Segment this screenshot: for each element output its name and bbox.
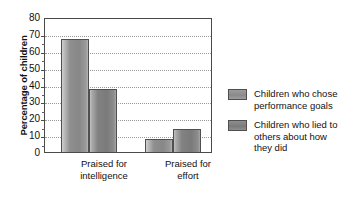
x-axis-label-intelligence: Praised for intelligence	[59, 158, 149, 181]
y-tick-label: 0	[16, 148, 40, 158]
y-tick-label: 50	[16, 64, 40, 74]
legend-entry-performance-goals: Children who chose performance goals	[228, 88, 358, 111]
x-axis-label-line: effort	[143, 170, 233, 182]
x-axis-label-line: Praised for	[143, 158, 233, 170]
gridline	[45, 36, 211, 37]
y-tick-label: 60	[16, 47, 40, 57]
y-tick-mark-minor	[42, 61, 45, 62]
bar-chart-figure: Percentage of children 80 70 60 50 40 30…	[0, 0, 358, 202]
chart-legend: Children who chose performance goals Chi…	[228, 88, 358, 162]
y-tick-label: 80	[16, 13, 40, 23]
legend-label-line: others about how	[254, 131, 327, 142]
y-tick-mark-minor	[42, 78, 45, 79]
bar-effort-performance-goals	[145, 139, 173, 152]
bar-effort-lied	[173, 129, 201, 152]
y-tick-mark	[41, 103, 45, 104]
legend-swatch-icon	[228, 120, 247, 131]
y-tick-mark-minor	[42, 112, 45, 113]
legend-swatch-icon	[228, 89, 247, 100]
y-tick-mark-minor	[42, 95, 45, 96]
y-tick-label: 30	[16, 97, 40, 107]
legend-label-line: Children who lied to	[254, 119, 337, 130]
y-tick-mark-minor	[42, 44, 45, 45]
y-tick-mark	[41, 70, 45, 71]
x-axis-label-line: Praised for	[59, 158, 149, 170]
bar-intelligence-performance-goals	[61, 39, 89, 152]
bar-intelligence-lied	[89, 89, 117, 152]
legend-label: Children who chose performance goals	[254, 88, 358, 111]
y-tick-mark	[41, 120, 45, 121]
legend-entry-lied: Children who lied to others about how th…	[228, 119, 358, 154]
y-tick-label: 40	[16, 81, 40, 91]
y-axis-tick-labels: 80 70 60 50 40 30 20 10 0	[16, 13, 40, 153]
y-tick-label: 10	[16, 131, 40, 141]
x-axis-label-line: intelligence	[59, 170, 149, 182]
y-tick-mark-minor	[42, 129, 45, 130]
y-tick-label: 70	[16, 30, 40, 40]
plot-inner	[45, 19, 211, 152]
x-axis-label-effort: Praised for effort	[143, 158, 233, 181]
y-tick-label: 20	[16, 114, 40, 124]
legend-label-line: they did	[254, 142, 287, 153]
plot-area	[44, 18, 212, 153]
y-tick-mark	[41, 53, 45, 54]
y-tick-mark-minor	[42, 146, 45, 147]
legend-label: Children who lied to others about how th…	[254, 119, 358, 154]
y-tick-mark	[41, 137, 45, 138]
y-tick-mark	[41, 87, 45, 88]
legend-label-line: Children who chose	[254, 88, 337, 99]
legend-label-line: performance goals	[254, 100, 333, 111]
y-tick-mark	[41, 36, 45, 37]
